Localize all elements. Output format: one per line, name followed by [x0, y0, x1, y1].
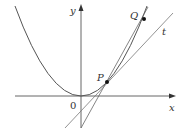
diagram-canvas	[0, 0, 191, 136]
y-axis-arrow-icon	[79, 4, 84, 11]
x-axis-label: x	[169, 103, 175, 113]
secant-line-pq	[81, 7, 148, 128]
point-q-label: Q	[130, 11, 138, 21]
tangent-secant-diagram: y x 0 P Q t	[0, 0, 191, 136]
point-p-label: P	[97, 73, 104, 83]
tangent-label: t	[162, 27, 166, 37]
origin-label: 0	[70, 101, 76, 111]
y-axis-label: y	[70, 6, 76, 16]
point-q	[142, 17, 146, 21]
point-p	[105, 80, 109, 84]
x-axis-arrow-icon	[169, 94, 176, 99]
